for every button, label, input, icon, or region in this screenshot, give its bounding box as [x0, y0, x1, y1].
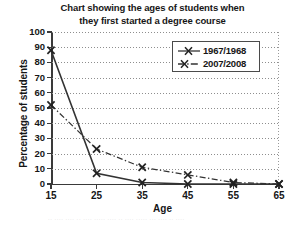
y-tick-label-30: 30	[34, 134, 45, 144]
x-tick-label-25: 25	[91, 190, 102, 201]
x-tick-35	[142, 184, 143, 189]
x-tick-label-45: 45	[182, 190, 193, 201]
x-tick-15	[50, 184, 51, 189]
chart-figure: Chart showing the ages of students when …	[0, 0, 302, 226]
y-tick-label-100: 100	[29, 27, 45, 37]
x-axis-title: Age	[40, 203, 285, 214]
x-tick-label-35: 35	[137, 190, 148, 201]
chart-title: Chart showing the ages of students when …	[30, 2, 275, 27]
marker-x-icon	[93, 145, 100, 152]
y-tick-label-70: 70	[34, 73, 45, 83]
y-tick-label-90: 90	[34, 42, 45, 52]
marker-x-icon	[47, 101, 54, 108]
series-2007-2008	[47, 101, 282, 187]
scan-artifact-text: ·· ···· ···· ·· ···· ····· ···· ·· ···· …	[48, 216, 263, 222]
plot-area: 0102030405060708090100 152535455565 1967…	[51, 32, 279, 184]
y-tick-label-60: 60	[34, 88, 45, 98]
y-tick-label-80: 80	[34, 58, 45, 68]
x-tick-label-65: 65	[273, 190, 284, 201]
y-tick-label-50: 50	[34, 103, 45, 113]
chart-title-line-1: Chart showing the ages of students when	[30, 2, 275, 15]
legend-item-1967-1968[interactable]: 1967/1968	[177, 44, 255, 57]
y-axis-title: Percentage of students	[18, 39, 29, 189]
y-tick-label-10: 10	[34, 164, 45, 174]
legend: 1967/1968 2007/2008	[172, 41, 260, 72]
legend-key-solid-x-icon	[177, 45, 201, 57]
x-tick-label-55: 55	[228, 190, 239, 201]
x-tick-label-15: 15	[45, 190, 56, 201]
y-tick-label-40: 40	[34, 118, 45, 128]
legend-label-2007-2008: 2007/2008	[203, 58, 246, 69]
marker-x-icon	[47, 47, 54, 54]
x-tick-25	[96, 184, 97, 189]
chart-title-line-2: they first started a degree course	[30, 15, 275, 28]
legend-item-2007-2008[interactable]: 2007/2008	[177, 57, 255, 70]
y-tick-label-20: 20	[34, 149, 45, 159]
legend-label-1967-1968: 1967/1968	[203, 45, 246, 56]
y-tick-label-0: 0	[40, 179, 45, 189]
legend-key-dashdot-x-icon	[177, 58, 201, 70]
